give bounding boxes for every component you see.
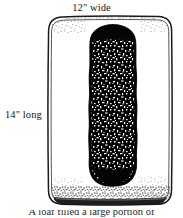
bread-loaf xyxy=(90,26,136,186)
caption-text: A loaf filled a large portion of xyxy=(0,210,183,218)
pan-length-label: 14" long xyxy=(5,109,42,121)
caption-clipped: A loaf filled a large portion of xyxy=(0,210,183,218)
loaf-body xyxy=(90,26,136,186)
pan-width-label: 12" wide xyxy=(0,2,183,14)
pan-diagram-figure: 12" wide 14" long xyxy=(0,0,183,218)
